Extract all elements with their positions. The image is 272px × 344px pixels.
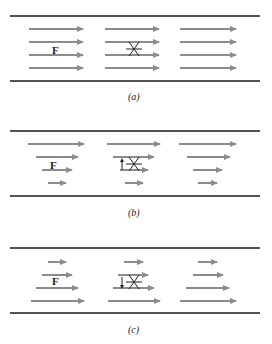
panel-c: F (c)	[10, 248, 260, 336]
paddle-wheel-icon	[126, 42, 142, 56]
paddle-wheel-icon	[126, 275, 142, 289]
caption: (c)	[128, 324, 140, 336]
flow-diagram: F (a) F (b)	[0, 0, 272, 344]
force-label: F	[52, 44, 59, 56]
force-label: F	[52, 275, 59, 287]
caption: (b)	[128, 207, 140, 219]
caption: (a)	[128, 91, 140, 103]
panel-b: F (b)	[10, 131, 260, 219]
paddle-wheel-icon	[126, 157, 142, 171]
panel-a: F (a)	[10, 16, 260, 103]
force-label: F	[50, 159, 57, 171]
